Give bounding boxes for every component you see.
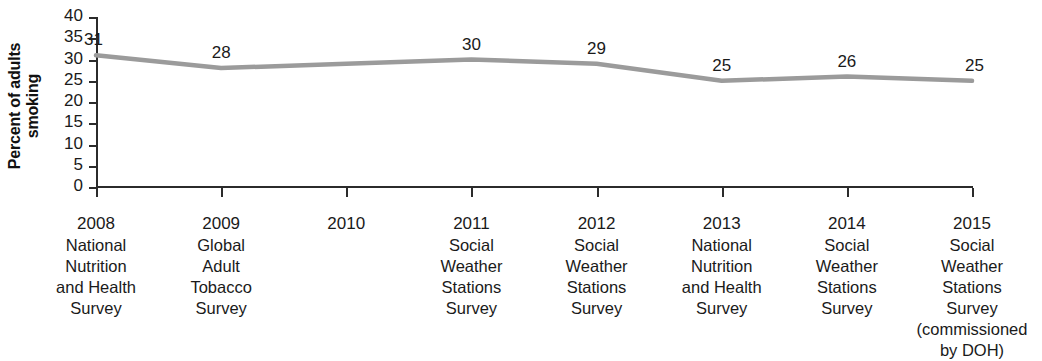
x-axis-year-label: 2011 xyxy=(408,213,534,235)
data-point-label: 30 xyxy=(451,35,491,54)
x-axis-category-2015: 2015Social Weather Stations Survey (comm… xyxy=(897,213,1042,361)
x-axis-category-2010: 2010 xyxy=(283,213,409,235)
data-point-label: 28 xyxy=(201,43,241,62)
x-axis-survey-label: Social Weather Stations Survey (commissi… xyxy=(897,235,1042,361)
x-axis-survey-label: Social Weather Stations Survey xyxy=(534,235,660,319)
x-axis-survey-label: National Nutrition and Health Survey xyxy=(659,235,785,319)
y-axis-tick-label: 5 xyxy=(49,155,83,175)
x-axis-year-label: 2010 xyxy=(283,213,409,235)
y-axis-tick-label: 0 xyxy=(49,176,83,196)
x-axis-survey-label: Social Weather Stations Survey xyxy=(408,235,534,319)
data-point-label: 25 xyxy=(944,56,984,75)
y-axis-title: Percent of adults smoking xyxy=(6,11,42,201)
data-point-label: 29 xyxy=(577,39,617,58)
y-axis-tick-label: 35 xyxy=(49,27,83,47)
plot-area: 4035302520151050 31283029252625 2008Nati… xyxy=(96,17,972,187)
y-axis-tick-label: 15 xyxy=(49,112,83,132)
x-axis-year-label: 2013 xyxy=(659,213,785,235)
x-axis-survey-label: Social Weather Stations Survey xyxy=(784,235,910,319)
y-axis-tick-label: 20 xyxy=(49,91,83,111)
x-axis-category-2011: 2011Social Weather Stations Survey xyxy=(408,213,534,319)
y-axis-tick-label: 10 xyxy=(49,134,83,154)
data-point-label: 25 xyxy=(702,56,742,75)
x-axis-category-2008: 2008National Nutrition and Health Survey xyxy=(33,213,159,319)
data-series-line xyxy=(96,0,976,197)
x-axis-year-label: 2009 xyxy=(158,213,284,235)
x-axis-survey-label: Global Adult Tobacco Survey xyxy=(158,235,284,319)
x-axis-year-label: 2012 xyxy=(534,213,660,235)
y-axis-tick-label: 30 xyxy=(49,49,83,69)
x-axis-year-label: 2008 xyxy=(33,213,159,235)
data-point-label: 26 xyxy=(827,52,867,71)
x-axis-category-2013: 2013National Nutrition and Health Survey xyxy=(659,213,785,319)
x-axis-year-label: 2014 xyxy=(784,213,910,235)
data-point-label: 31 xyxy=(84,30,124,49)
x-axis-category-2012: 2012Social Weather Stations Survey xyxy=(534,213,660,319)
x-axis-survey-label: National Nutrition and Health Survey xyxy=(33,235,159,319)
x-axis-year-label: 2015 xyxy=(897,213,1042,235)
y-axis-tick-label: 25 xyxy=(49,70,83,90)
x-axis-category-2014: 2014Social Weather Stations Survey xyxy=(784,213,910,319)
x-axis-category-2009: 2009Global Adult Tobacco Survey xyxy=(158,213,284,319)
y-axis-tick-label: 40 xyxy=(49,6,83,26)
